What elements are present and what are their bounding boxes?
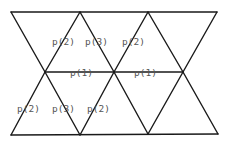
- diag-upper-1: [11, 12, 45, 72]
- diag-lower-6: [183, 72, 218, 134]
- diag-lower-4: [114, 72, 148, 134]
- lattice-labels: p(2) p(3) p(2) p(1) p(1) p(2) p(3) p(2): [17, 36, 157, 114]
- diag-upper-6: [183, 12, 217, 72]
- label-p2-upper-left: p(2): [52, 36, 75, 47]
- label-p3-lower: p(3): [52, 103, 75, 114]
- label-p1-left: p(1): [70, 67, 93, 78]
- triangular-lattice-diagram: p(2) p(3) p(2) p(1) p(1) p(2) p(3) p(2): [0, 0, 225, 145]
- label-p2-lower-left: p(2): [17, 103, 40, 114]
- diag-lower-5: [148, 72, 183, 134]
- bottom-edge: [11, 134, 218, 135]
- label-p2-lower-right: p(2): [87, 103, 110, 114]
- label-p2-upper-right: p(2): [122, 36, 145, 47]
- label-p1-right: p(1): [134, 67, 157, 78]
- label-p3-upper: p(3): [85, 36, 108, 47]
- diag-upper-5: [148, 12, 183, 72]
- lattice-lines: [11, 12, 218, 135]
- lattice-svg: p(2) p(3) p(2) p(1) p(1) p(2) p(3) p(2): [0, 0, 225, 145]
